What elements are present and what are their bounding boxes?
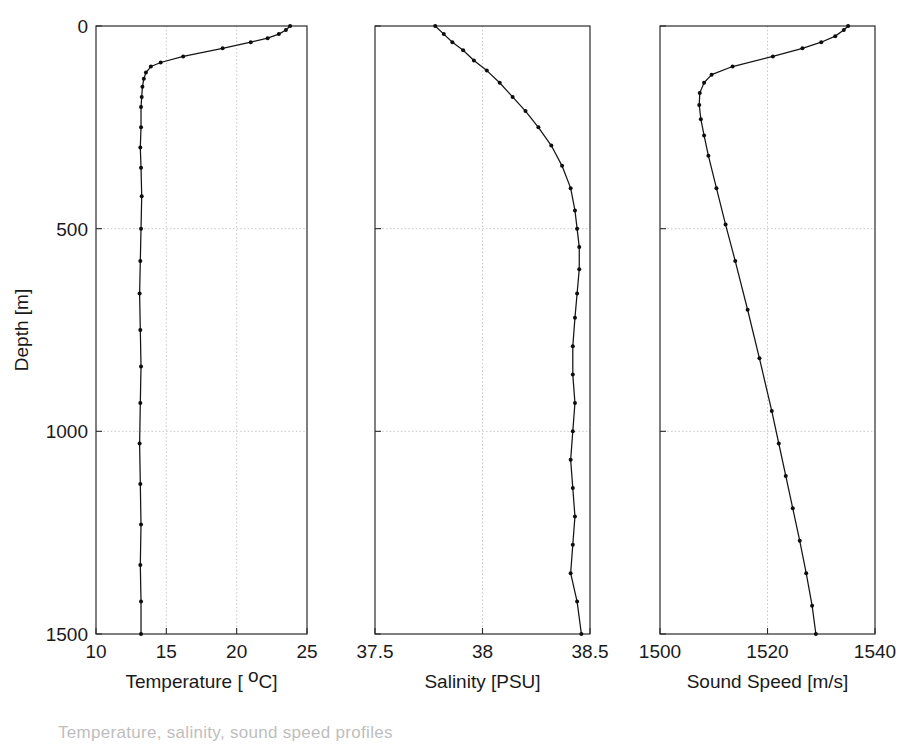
data-point — [777, 441, 781, 445]
data-point — [579, 632, 583, 636]
data-point — [221, 46, 225, 50]
data-point — [573, 514, 577, 518]
data-point — [549, 144, 553, 148]
y-axis-title: Depth [m] — [11, 289, 32, 371]
data-point — [575, 600, 579, 604]
data-point — [810, 604, 814, 608]
data-point — [819, 40, 823, 44]
data-point — [569, 186, 573, 190]
x-tick-label: 25 — [296, 641, 317, 662]
data-point — [569, 571, 573, 575]
data-point — [139, 600, 143, 604]
data-point — [138, 482, 142, 486]
oceanographic-profile-figure: 10152025Temperature [ oC]37.53838.5Salin… — [0, 0, 911, 744]
data-point — [573, 316, 577, 320]
data-point — [140, 85, 144, 89]
partial-caption-text: Temperature, salinity, sound speed profi… — [0, 722, 911, 744]
data-point — [433, 24, 437, 28]
data-point — [698, 91, 702, 95]
profile-line — [435, 26, 581, 634]
data-point — [524, 109, 528, 113]
x-axis-title: Temperature [ oC] — [125, 665, 277, 692]
data-point — [770, 409, 774, 413]
chart-panel-3: 150015201540Sound Speed [m/s] — [639, 24, 896, 692]
data-point — [733, 259, 737, 263]
data-point — [575, 292, 579, 296]
data-point — [699, 117, 703, 121]
data-point — [138, 146, 142, 150]
data-point — [771, 54, 775, 58]
data-point — [472, 58, 476, 62]
x-axis-title: Salinity [PSU] — [424, 671, 540, 692]
data-point — [138, 292, 142, 296]
data-point — [702, 133, 706, 137]
data-point — [800, 46, 804, 50]
data-point — [791, 506, 795, 510]
data-point — [784, 474, 788, 478]
profile-line — [699, 26, 848, 634]
data-point — [577, 267, 581, 271]
y-axis-group: 050010001500Depth [m] — [11, 16, 88, 645]
data-point — [575, 227, 579, 231]
data-point — [571, 344, 575, 348]
data-point — [266, 36, 270, 40]
data-point — [139, 632, 143, 636]
data-point — [181, 54, 185, 58]
data-point — [833, 34, 837, 38]
x-tick-label: 1520 — [746, 641, 788, 662]
data-point — [139, 523, 143, 527]
data-point — [159, 60, 163, 64]
data-point — [288, 24, 292, 28]
x-tick-label: 1540 — [854, 641, 896, 662]
data-point — [804, 571, 808, 575]
x-tick-label: 15 — [156, 641, 177, 662]
x-tick-label: 37.5 — [357, 641, 394, 662]
data-point — [571, 373, 575, 377]
data-point — [139, 166, 143, 170]
data-point — [798, 539, 802, 543]
data-point — [140, 194, 144, 198]
x-tick-label: 38.5 — [572, 641, 609, 662]
data-point — [140, 95, 144, 99]
data-point — [573, 401, 577, 405]
data-point — [450, 40, 454, 44]
x-tick-label: 38 — [472, 641, 493, 662]
data-point — [485, 69, 489, 73]
data-point — [139, 105, 143, 109]
data-point — [702, 81, 706, 85]
data-point — [249, 40, 253, 44]
plot-frame — [96, 26, 307, 634]
data-point — [142, 77, 146, 81]
y-tick-label: 0 — [77, 16, 88, 37]
data-point — [461, 48, 465, 52]
data-point — [724, 223, 728, 227]
data-point — [757, 356, 761, 360]
profile-line — [140, 26, 291, 634]
chart-panel-2: 37.53838.5Salinity [PSU] — [357, 24, 609, 692]
x-axis-title: Sound Speed [m/s] — [687, 671, 849, 692]
data-point — [697, 103, 701, 107]
chart-panel-1: 10152025Temperature [ oC] — [85, 24, 317, 692]
data-point — [710, 73, 714, 77]
data-point — [138, 441, 142, 445]
data-point — [138, 563, 142, 567]
data-point — [573, 208, 577, 212]
data-point — [139, 227, 143, 231]
data-point — [138, 328, 142, 332]
data-point — [138, 401, 142, 405]
x-tick-label: 10 — [85, 641, 106, 662]
data-point — [284, 28, 288, 32]
data-point — [149, 65, 153, 69]
data-point — [571, 486, 575, 490]
x-tick-label: 1500 — [639, 641, 681, 662]
data-point — [714, 186, 718, 190]
data-point — [139, 364, 143, 368]
profiles-svg: 10152025Temperature [ oC]37.53838.5Salin… — [0, 0, 911, 744]
data-point — [277, 32, 281, 36]
data-point — [577, 245, 581, 249]
data-point — [846, 24, 850, 28]
y-tick-label: 500 — [56, 219, 88, 240]
data-point — [569, 458, 573, 462]
data-point — [746, 308, 750, 312]
data-point — [442, 32, 446, 36]
